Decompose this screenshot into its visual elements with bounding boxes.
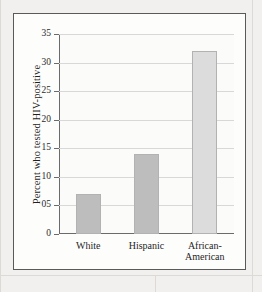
- y-axis-tick-label: 20: [42, 115, 52, 125]
- y-axis-tick: [54, 120, 59, 121]
- x-axis-category-label: Hispanic: [129, 240, 165, 251]
- gridline: [59, 34, 234, 35]
- plot-area: 005101520253035WhiteHispanicAfrican- Ame…: [59, 34, 234, 234]
- y-axis-tick: [54, 177, 59, 178]
- y-axis-tick: [54, 91, 59, 92]
- y-axis-tick: [54, 234, 59, 235]
- y-axis-tick: [54, 148, 59, 149]
- y-axis-tick: [54, 63, 59, 64]
- y-axis-tick-label: 25: [42, 86, 52, 96]
- plot-inner: 005101520253035WhiteHispanicAfrican- Ame…: [59, 34, 234, 234]
- y-axis-tick-label: 0: [46, 229, 51, 239]
- y-axis-tick-label: 15: [42, 144, 52, 154]
- bar-chart-figure: Percent who tested HIV-positive 00510152…: [13, 13, 246, 270]
- y-axis-tick: [54, 205, 59, 206]
- x-axis-category-label: White: [76, 240, 100, 251]
- bar: [134, 154, 159, 234]
- bar: [76, 194, 101, 234]
- y-axis-tick-label: 05: [42, 201, 52, 211]
- y-axis-tick-label: 30: [42, 58, 52, 68]
- y-axis-tick: [54, 34, 59, 35]
- y-axis-line: [59, 34, 60, 234]
- x-axis-category-label: African- American: [185, 240, 224, 262]
- bar: [192, 51, 217, 234]
- y-axis-tick-label: 10: [42, 172, 52, 182]
- y-axis-tick-label: 35: [42, 29, 52, 39]
